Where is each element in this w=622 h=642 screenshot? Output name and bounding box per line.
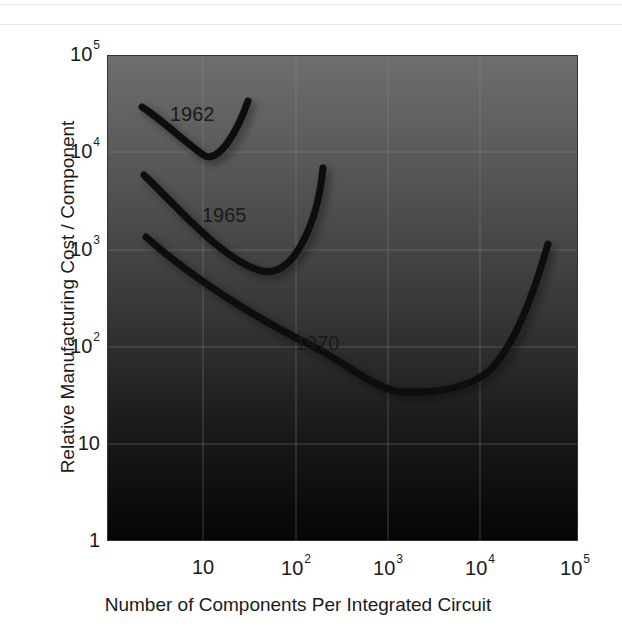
x-tick-10000: 104 xyxy=(450,556,510,580)
label-1962: 1962 xyxy=(170,103,215,125)
x-axis-title: Number of Components Per Integrated Circ… xyxy=(0,594,622,616)
gridlines xyxy=(108,56,577,540)
y-tick-1: 1 xyxy=(40,529,100,552)
x-tick-10: 10 xyxy=(173,556,233,579)
x-tick-100: 102 xyxy=(266,556,326,580)
curve-1970 xyxy=(146,237,548,392)
x-tick-1000: 103 xyxy=(358,556,418,580)
y-axis-title: Relative Manufacturing Cost / Component xyxy=(57,121,79,474)
label-1965: 1965 xyxy=(202,204,247,226)
label-1970: 1970 xyxy=(295,332,340,354)
x-tick-100000: 105 xyxy=(545,556,605,580)
y-tick-100000: 105 xyxy=(40,42,100,66)
